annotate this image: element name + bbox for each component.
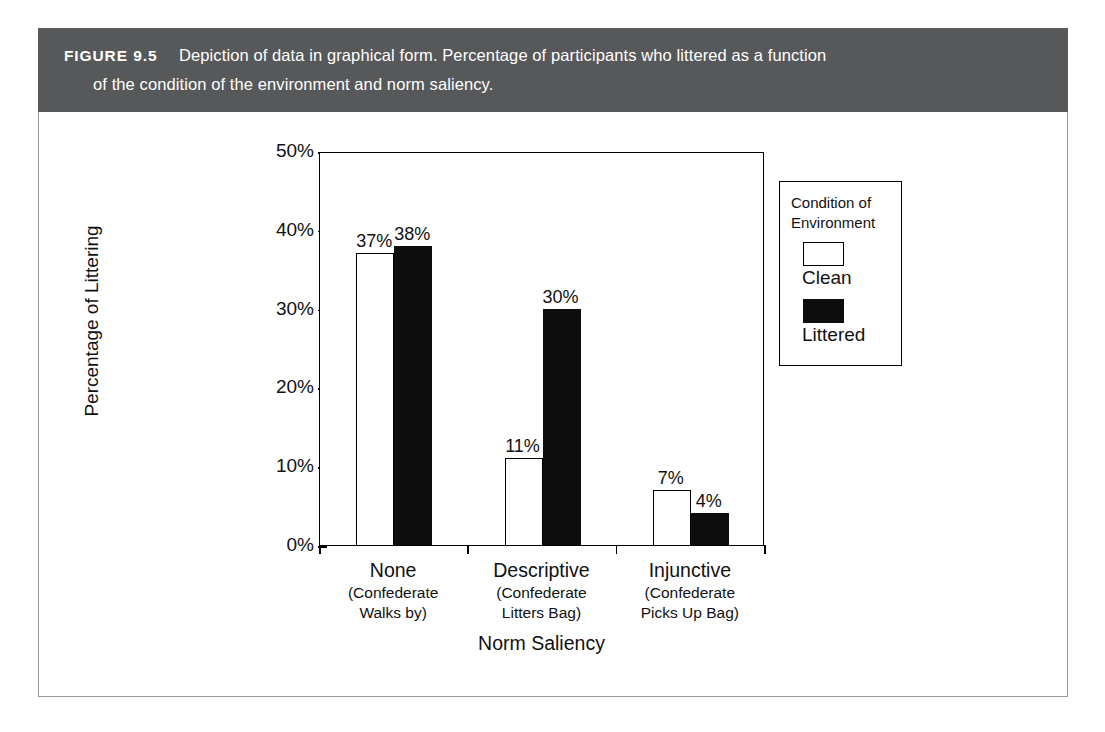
bar-injunctive-littered — [691, 513, 729, 545]
figure-number-label: FIGURE 9.5 — [64, 47, 157, 64]
y-axis-tick-label: 50% — [276, 140, 314, 162]
y-axis-tick: 20% — [239, 388, 327, 389]
legend-label-littered: Littered — [802, 323, 901, 346]
figure-header-band: FIGURE 9.5 Depiction of data in graphica… — [38, 28, 1068, 112]
legend-label-clean: Clean — [802, 266, 901, 289]
legend-entry-littered: Littered — [791, 299, 901, 346]
bar-chart: Percentage of Littering 0%10%20%30%40%50… — [39, 112, 1069, 697]
legend-title: Condition of Environment — [791, 193, 901, 232]
y-axis-tick-label: 0% — [287, 534, 314, 556]
figure-caption-line-1: Depiction of data in graphical form. Per… — [179, 46, 826, 64]
figure-panel: FIGURE 9.5 Depiction of data in graphica… — [38, 28, 1068, 697]
bar-value-label: 30% — [533, 287, 589, 308]
bar-none-clean — [356, 253, 394, 545]
x-axis-title: Norm Saliency — [319, 632, 764, 655]
x-axis-tick-mark — [467, 545, 469, 554]
y-axis-title: Percentage of Littering — [81, 206, 103, 436]
x-axis-label-main: Descriptive — [455, 558, 627, 583]
x-axis-tick-mark — [616, 545, 618, 554]
x-axis-label-sub: (Confederate — [455, 583, 627, 603]
y-axis-tick-label: 40% — [276, 219, 314, 241]
bar-descriptive-clean — [505, 458, 543, 545]
figure-body: Percentage of Littering 0%10%20%30%40%50… — [38, 112, 1068, 697]
chart-legend: Condition of Environment Clean Littered — [779, 181, 902, 366]
x-axis-label-sub: (Confederate — [307, 583, 479, 603]
x-axis-label-main: Injunctive — [604, 558, 776, 583]
y-axis-tick-label: 10% — [276, 455, 314, 477]
x-axis-label-sub: Litters Bag) — [455, 603, 627, 623]
y-axis-tick: 40% — [239, 231, 327, 232]
bar-value-label: 4% — [681, 491, 737, 512]
figure-header-line-1: FIGURE 9.5 Depiction of data in graphica… — [64, 41, 1038, 70]
x-axis-label-main: None — [307, 558, 479, 583]
x-axis-label-descriptive: Descriptive(ConfederateLitters Bag) — [455, 558, 627, 623]
figure-caption-line-2: of the condition of the environment and … — [93, 75, 493, 93]
bar-descriptive-littered — [543, 309, 581, 545]
figure-header-line-2: of the condition of the environment and … — [64, 70, 1038, 99]
y-axis-tick: 10% — [239, 467, 327, 468]
y-axis-tick: 50% — [239, 152, 327, 153]
legend-title-line-1: Condition of — [791, 194, 871, 211]
y-axis-tick-label: 30% — [276, 298, 314, 320]
x-axis-label-sub: Walks by) — [307, 603, 479, 623]
x-axis-tick-mark — [764, 545, 766, 554]
x-axis-label-none: None(ConfederateWalks by) — [307, 558, 479, 623]
bar-value-label: 38% — [384, 224, 440, 245]
bar-none-littered — [394, 246, 432, 545]
y-axis-tick: 0% — [239, 546, 327, 547]
x-axis-label-injunctive: Injunctive(ConfederatePicks Up Bag) — [604, 558, 776, 623]
x-axis-label-sub: (Confederate — [604, 583, 776, 603]
bar-value-label: 7% — [643, 468, 699, 489]
x-axis-tick-mark — [319, 545, 321, 554]
y-axis-tick-label: 20% — [276, 376, 314, 398]
y-axis-tick: 30% — [239, 310, 327, 311]
legend-title-line-2: Environment — [791, 214, 875, 231]
legend-swatch-littered — [803, 299, 844, 323]
x-axis-label-sub: Picks Up Bag) — [604, 603, 776, 623]
legend-entry-clean: Clean — [791, 242, 901, 289]
legend-swatch-clean — [803, 242, 844, 266]
